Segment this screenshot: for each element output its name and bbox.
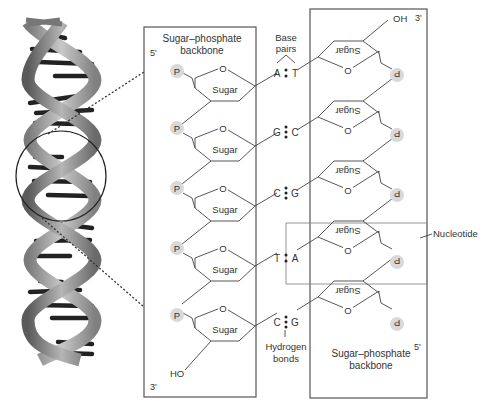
base-right: C <box>291 127 298 138</box>
svg-text:O: O <box>344 245 351 256</box>
svg-text:O: O <box>344 65 351 76</box>
svg-text:P: P <box>174 66 180 77</box>
dna-structure-diagram: Sugar–phosphate backbone 5' 3' HO 3' OH … <box>0 0 486 408</box>
svg-text:Sugar: Sugar <box>212 84 237 95</box>
svg-text:P: P <box>174 123 180 134</box>
svg-text:Sugar: Sugar <box>335 166 360 177</box>
svg-text:O: O <box>219 183 226 194</box>
svg-text:P: P <box>394 69 400 80</box>
right-backbone-title-2: backbone <box>349 360 393 371</box>
svg-text:P: P <box>174 310 180 321</box>
left-phosphate-labels: P P P P P <box>174 66 180 321</box>
svg-text:O: O <box>219 303 226 314</box>
base-right: G <box>291 317 299 328</box>
right-backbone-title-1: Sugar–phosphate <box>332 348 411 359</box>
svg-text:Sugar: Sugar <box>212 144 237 155</box>
base-pair-5: C G <box>273 316 299 329</box>
left-sugar-labels: O O O O O Sugar Sugar Sugar Sugar Sugar <box>212 62 237 335</box>
svg-text:Sugar: Sugar <box>212 324 237 335</box>
nucleotide-label: Nucleotide <box>433 228 478 239</box>
base-left: C <box>273 317 280 328</box>
base-right: A <box>292 253 299 264</box>
base-pairs-bracket <box>277 55 295 63</box>
hydrogen-bonds-label-2: bonds <box>273 353 299 364</box>
svg-text:O: O <box>219 63 226 74</box>
base-left: A <box>274 68 281 79</box>
svg-text:Sugar: Sugar <box>335 286 360 297</box>
svg-text:O: O <box>344 125 351 136</box>
right-3prime-label: 3' <box>415 13 422 23</box>
svg-text:P: P <box>394 318 400 329</box>
right-phosphate-labels: P P P P P <box>394 69 400 329</box>
svg-text:P: P <box>394 256 400 267</box>
base-pair-2: G C <box>273 126 299 139</box>
svg-text:Sugar: Sugar <box>335 46 360 57</box>
base-right: G <box>291 188 299 199</box>
base-right: T <box>292 68 298 79</box>
left-backbone-title-2: backbone <box>180 45 224 56</box>
base-left: C <box>273 188 280 199</box>
base-pair-1: A T <box>274 68 298 79</box>
right-sugar-labels: O O O O O Sugar Sugar Sugar Sugar Sugar <box>335 46 360 316</box>
right-unit-1 <box>297 20 392 70</box>
left-backbone-title-1: Sugar–phosphate <box>163 33 242 44</box>
right-5prime-label: 5' <box>414 342 421 352</box>
right-hydroxyl-label: OH <box>393 13 407 24</box>
svg-text:O: O <box>219 123 226 134</box>
left-3prime-label: 3' <box>150 382 157 392</box>
hydrogen-bonds-label-1: Hydrogen <box>265 341 306 352</box>
svg-text:O: O <box>344 305 351 316</box>
right-backbone-box <box>310 9 427 398</box>
base-left: G <box>273 127 281 138</box>
svg-text:P: P <box>394 189 400 200</box>
svg-text:Sugar: Sugar <box>335 106 360 117</box>
nucleotide-pointer <box>420 234 432 238</box>
right-strand-units <box>297 20 393 310</box>
svg-text:O: O <box>344 185 351 196</box>
svg-text:P: P <box>174 243 180 254</box>
svg-text:P: P <box>394 129 400 140</box>
svg-text:O: O <box>219 243 226 254</box>
left-hydroxyl-label: HO <box>170 368 184 379</box>
base-pairs-label-2: pairs <box>276 43 297 54</box>
svg-text:Sugar: Sugar <box>212 204 237 215</box>
double-helix-illustration <box>26 20 95 360</box>
base-left: T <box>274 253 280 264</box>
svg-text:P: P <box>174 183 180 194</box>
left-5prime-label: 5' <box>150 48 157 58</box>
svg-text:Sugar: Sugar <box>212 264 237 275</box>
svg-text:Sugar: Sugar <box>335 226 360 237</box>
base-pairs-label-1: Base <box>275 32 297 43</box>
base-pair-3: C G <box>273 187 299 200</box>
